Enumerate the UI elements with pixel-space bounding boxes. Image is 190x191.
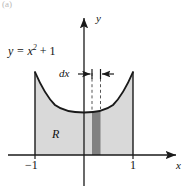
y-axis-label: y <box>96 13 101 24</box>
panel-tag: (a) <box>2 0 12 9</box>
differential-strip <box>92 111 101 155</box>
dx-label: dx <box>59 68 69 79</box>
curve-equation-label: y = x2 + 1 <box>8 44 56 57</box>
curve-equation-exponent: 2 <box>33 43 37 52</box>
curve-equation-main: y = x <box>8 44 33 58</box>
region-label-R: R <box>52 128 59 140</box>
x-tick-label-pos1: 1 <box>130 159 136 171</box>
x-axis-label: x <box>176 160 181 171</box>
curve-equation-tail: + 1 <box>40 44 56 58</box>
x-tick-label-neg1: −1 <box>25 159 38 171</box>
